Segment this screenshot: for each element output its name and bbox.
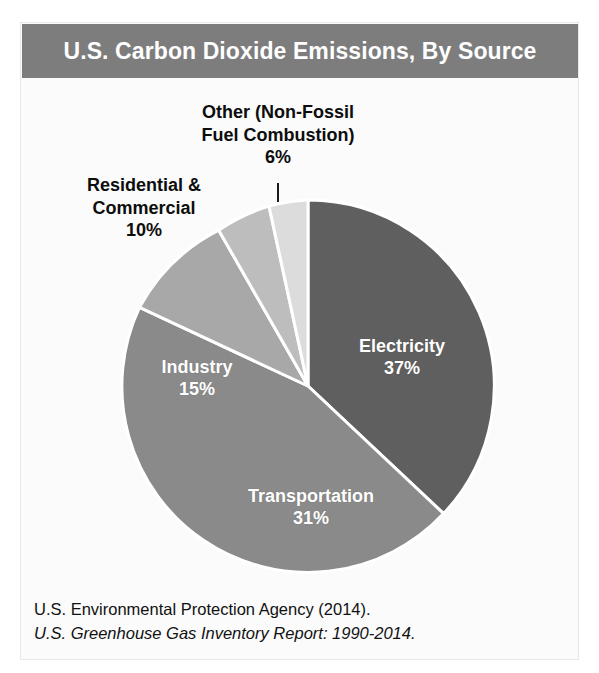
slice-label-electricity-name: Electricity (359, 336, 445, 356)
slice-label-industry: Industry 15% (132, 357, 262, 401)
slice-label-electricity: Electricity 37% (332, 336, 472, 380)
callout-label-residential-line2: Commercial (92, 198, 195, 218)
callout-label-other-pct: 6% (158, 146, 398, 169)
figure-container: U.S. Carbon Dioxide Emissions, By Source… (0, 0, 599, 673)
leader-line-other (277, 183, 279, 202)
callout-label-residential-commercial: Residential & Commercial 10% (44, 174, 244, 242)
chart-title: U.S. Carbon Dioxide Emissions, By Source (63, 38, 536, 65)
slice-label-industry-name: Industry (161, 357, 232, 377)
source-citation: U.S. Environmental Protection Agency (20… (34, 598, 554, 646)
slice-label-industry-pct: 15% (132, 379, 262, 401)
callout-label-residential-pct: 10% (44, 219, 244, 242)
callout-label-residential-line1: Residential & (87, 175, 201, 195)
citation-line-1: U.S. Environmental Protection Agency (20… (34, 598, 554, 622)
callout-label-other: Other (Non-Fossil Fuel Combustion) 6% (158, 101, 398, 169)
slice-label-transportation: Transportation 31% (216, 486, 406, 530)
slice-label-transportation-name: Transportation (248, 486, 374, 506)
chart-title-bar: U.S. Carbon Dioxide Emissions, By Source (22, 24, 578, 78)
slice-label-electricity-pct: 37% (332, 358, 472, 380)
citation-line-2: U.S. Greenhouse Gas Inventory Report: 19… (34, 622, 554, 646)
slice-label-transportation-pct: 31% (216, 508, 406, 530)
callout-label-other-line2: Fuel Combustion) (202, 125, 355, 145)
callout-label-other-line1: Other (Non-Fossil (202, 102, 354, 122)
